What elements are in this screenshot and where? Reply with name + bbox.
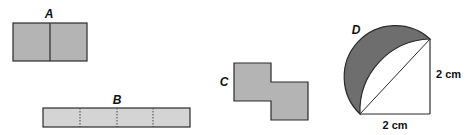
shape-c: C [220,63,308,120]
shape-a: A [13,7,87,61]
shape-a-label: A [44,7,54,21]
shape-c-label: C [220,75,229,89]
shape-d: D 2 cm 2 cm [344,23,461,131]
shape-d-width-label: 2 cm [382,119,407,131]
shape-d-height-label: 2 cm [436,68,461,80]
shape-b: B [43,93,190,127]
shape-b-label: B [113,93,122,107]
shape-c-outline [234,63,308,120]
shapes-figure: A B C D 2 cm 2 cm [0,0,472,135]
shape-d-label: D [352,23,361,37]
shape-d-shaded-crescent [344,26,430,114]
